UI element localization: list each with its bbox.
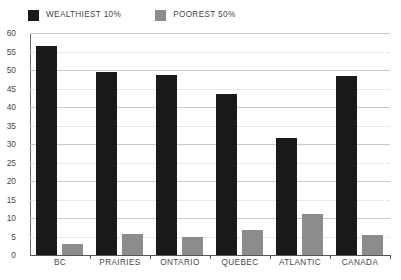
bar-chart: WEALTHIEST 10% POOREST 50% 0510152025303… (0, 0, 401, 280)
bar (336, 76, 357, 255)
x-tick (390, 255, 391, 259)
bar (276, 138, 297, 255)
y-tick-label-0: 0 (0, 251, 16, 259)
bar (156, 75, 177, 255)
plot-area: 051015202530354045505560 (30, 33, 390, 255)
y-tick-label-30: 30 (0, 140, 16, 148)
y-tick-label-10: 10 (0, 214, 16, 222)
y-tick-label-5: 5 (0, 232, 16, 240)
bar-group (150, 33, 210, 255)
bars-layer (30, 33, 390, 255)
y-tick-label-60: 60 (0, 29, 16, 37)
y-tick-label-45: 45 (0, 84, 16, 92)
legend-swatch-wealthiest (28, 10, 39, 21)
y-tick-label-35: 35 (0, 121, 16, 129)
bar (122, 234, 143, 255)
x-axis-label-prairies: PRAIRIES (90, 259, 150, 267)
y-tick-label-50: 50 (0, 66, 16, 74)
y-tick-label-15: 15 (0, 195, 16, 203)
bar (36, 46, 57, 255)
legend-item-poorest: POOREST 50% (155, 10, 235, 21)
y-tick-label-40: 40 (0, 103, 16, 111)
legend-label-poorest: POOREST 50% (173, 11, 235, 19)
x-axis-label-quebec: QUEBEC (210, 259, 270, 267)
bar (216, 94, 237, 255)
x-axis-label-ontario: ONTARIO (150, 259, 210, 267)
y-tick-label-20: 20 (0, 177, 16, 185)
x-axis-label-bc: BC (30, 259, 90, 267)
x-axis-label-canada: CANADA (330, 259, 390, 267)
y-tick-label-25: 25 (0, 158, 16, 166)
y-tick-label-55: 55 (0, 47, 16, 55)
bar-group (210, 33, 270, 255)
bar (62, 244, 83, 255)
bar (362, 235, 383, 255)
legend-item-wealthiest: WEALTHIEST 10% (28, 10, 121, 21)
x-axis-label-atlantic: ATLANTIC (270, 259, 330, 267)
bar (302, 214, 323, 255)
bar-group (270, 33, 330, 255)
bar (96, 72, 117, 255)
legend-swatch-poorest (155, 10, 166, 21)
bar (242, 230, 263, 255)
bar-group (30, 33, 90, 255)
bar (182, 237, 203, 255)
chart-legend: WEALTHIEST 10% POOREST 50% (28, 7, 236, 23)
legend-label-wealthiest: WEALTHIEST 10% (46, 11, 121, 19)
bar-group (330, 33, 390, 255)
bar-group (90, 33, 150, 255)
